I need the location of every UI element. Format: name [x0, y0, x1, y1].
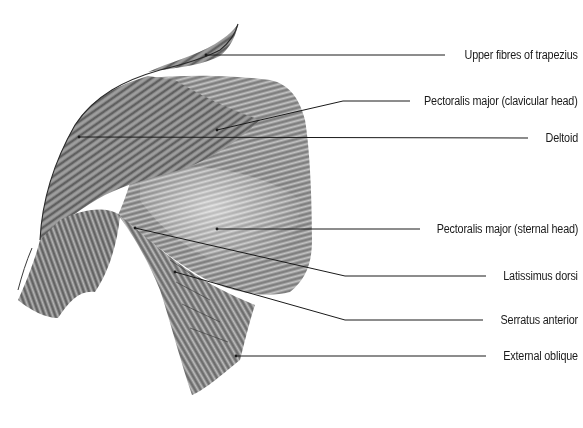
label-latissimus-dorsi: Latissimus dorsi	[503, 269, 578, 283]
anchor-dot-external-oblique	[235, 355, 238, 358]
label-external-oblique: External oblique	[503, 349, 578, 363]
anatomy-figure: Upper fibres of trapezius Pectoralis maj…	[0, 0, 583, 428]
label-serratus-anterior: Serratus anterior	[501, 313, 578, 327]
anchor-dot-deltoid	[78, 136, 81, 139]
arm-shape	[18, 210, 120, 318]
label-pectoralis-sternal: Pectoralis major (sternal head)	[437, 222, 578, 236]
anchor-dot-pec-clavicular	[216, 129, 219, 132]
muscle-illustration	[0, 0, 583, 428]
anchor-dot-serratus	[174, 271, 177, 274]
label-trapezius: Upper fibres of trapezius	[465, 48, 578, 62]
anchor-dot-pec-sternal	[216, 228, 219, 231]
anchor-dot-latissimus	[134, 227, 137, 230]
label-pectoralis-clavicular: Pectoralis major (clavicular head)	[424, 94, 578, 108]
trapezius-shape	[148, 24, 238, 72]
anchor-dot-trapezius	[205, 54, 208, 57]
label-deltoid: Deltoid	[546, 131, 578, 145]
